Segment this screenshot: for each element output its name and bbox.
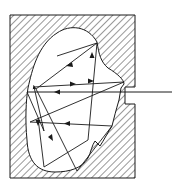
arrow-left-icon [64,121,70,126]
cavity-diagram [0,0,188,193]
arrow-down-icon [36,120,41,126]
direction-arrows [36,52,95,141]
diagram-stage [0,0,188,193]
arrow-down-right-icon [48,134,53,141]
arrow-up-icon [90,52,95,58]
arrow-right-icon [70,82,76,87]
arrow-up-left-icon [66,62,73,67]
arrow-left-icon [54,90,60,95]
